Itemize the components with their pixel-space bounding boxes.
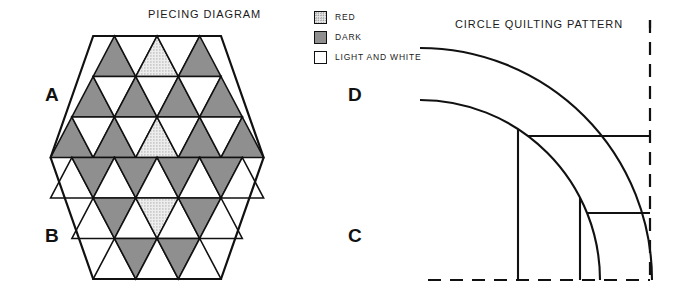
piecing-diagram [0, 28, 400, 290]
inner-arc [420, 100, 600, 280]
triangle-grid [51, 36, 264, 279]
corner-label-a: A [45, 85, 59, 104]
legend-swatch-red-icon [314, 11, 327, 24]
corner-label-b: B [45, 226, 59, 245]
corner-label-c: C [348, 226, 362, 245]
diagram-page: PIECING DIAGRAM RED DARK LIGHT AND WHITE… [0, 0, 677, 298]
circle-pattern-lines [420, 20, 652, 280]
outer-arc [420, 48, 652, 280]
legend-label-red: RED [335, 12, 355, 22]
piecing-diagram-title: PIECING DIAGRAM [148, 8, 261, 20]
corner-label-d: D [348, 85, 362, 104]
legend-item-red: RED [314, 8, 421, 26]
circle-quilting-pattern [420, 8, 677, 293]
